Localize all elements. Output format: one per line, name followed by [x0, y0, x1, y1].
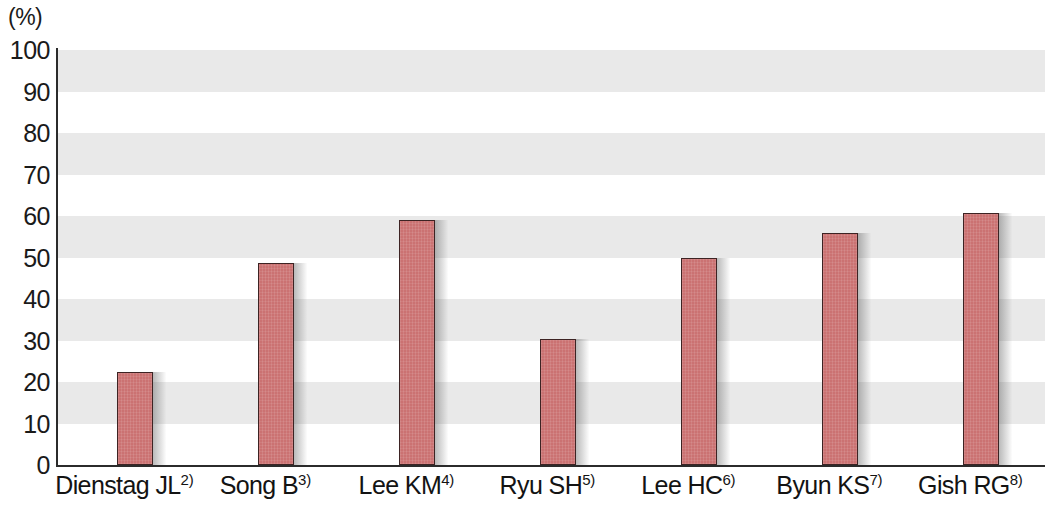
category-name: Gish RG	[918, 471, 1010, 499]
y-axis-tick-label: 90	[2, 79, 56, 104]
x-axis-category-label: Dienstag JL2)	[55, 472, 193, 498]
grid-band	[58, 216, 1045, 258]
bar[interactable]	[117, 372, 153, 465]
y-axis-ticks: 1009080706050403020100	[0, 0, 56, 509]
bar[interactable]	[963, 213, 999, 465]
y-axis-tick-label: 20	[2, 370, 56, 395]
category-name: Byun KS	[776, 471, 869, 499]
x-axis-category-label: Song B3)	[220, 472, 311, 498]
x-axis-category-label: Gish RG8)	[918, 472, 1022, 498]
bar-chart: (%) 1009080706050403020100 Dienstag JL2)…	[0, 0, 1063, 509]
bar-shadow	[294, 263, 307, 465]
plot-area	[58, 50, 1045, 465]
bar[interactable]	[822, 233, 858, 465]
bar[interactable]	[399, 220, 435, 465]
y-axis-line	[56, 48, 58, 467]
y-axis-tick-label: 10	[2, 411, 56, 436]
x-axis-category-label: Lee HC6)	[641, 472, 735, 498]
bar-shadow	[717, 258, 730, 466]
category-name: Ryu SH	[500, 471, 583, 499]
reference-marker: 7)	[869, 471, 882, 488]
grid-band	[58, 299, 1045, 341]
bar-shadow	[999, 213, 1012, 465]
bar-shadow	[435, 220, 448, 465]
y-axis-tick-label: 70	[2, 162, 56, 187]
x-axis-line	[56, 465, 1045, 467]
category-name: Lee HC	[641, 471, 722, 499]
y-axis-tick-label: 100	[2, 38, 56, 63]
grid-band	[58, 50, 1045, 92]
reference-marker: 6)	[722, 471, 735, 488]
bar-shadow	[576, 339, 589, 465]
bar-shadow	[153, 372, 166, 465]
bar[interactable]	[540, 339, 576, 465]
category-name: Song B	[220, 471, 298, 499]
category-name: Lee KM	[359, 471, 442, 499]
reference-marker: 4)	[441, 471, 454, 488]
reference-marker: 2)	[181, 471, 194, 488]
reference-marker: 3)	[298, 471, 311, 488]
category-name: Dienstag JL	[55, 471, 180, 499]
bar-shadow	[858, 233, 871, 465]
x-axis-category-label: Lee KM4)	[359, 472, 454, 498]
x-axis-category-label: Ryu SH5)	[500, 472, 595, 498]
x-axis-category-label: Byun KS7)	[776, 472, 882, 498]
y-axis-tick-label: 80	[2, 121, 56, 146]
grid-band	[58, 133, 1045, 175]
reference-marker: 5)	[582, 471, 595, 488]
y-axis-tick-label: 50	[2, 245, 56, 270]
y-axis-tick-label: 60	[2, 204, 56, 229]
y-axis-tick-label: 30	[2, 328, 56, 353]
bar[interactable]	[258, 263, 294, 465]
y-axis-tick-label: 0	[2, 453, 56, 478]
bar[interactable]	[681, 258, 717, 466]
reference-marker: 8)	[1010, 471, 1023, 488]
y-axis-tick-label: 40	[2, 287, 56, 312]
